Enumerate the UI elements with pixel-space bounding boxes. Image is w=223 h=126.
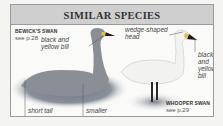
bewicks-bill-note: black and yellow bill [41, 36, 69, 50]
whooper-bill-note: black and yellow bill [198, 51, 214, 79]
short-tail-note: short tail [28, 107, 53, 114]
panel-header: SIMILAR SPECIES [11, 5, 213, 25]
whooper-swan-page-ref: see p.29 [166, 107, 210, 114]
similar-species-panel: SIMILAR SPECIES [10, 4, 214, 117]
whooper-swan-label: WHOOPER SWAN see p.29 [166, 100, 210, 114]
bewicks-swan-name: BEWICK'S SWAN [15, 28, 58, 35]
whooper-head-note: wedge-shaped head [125, 26, 168, 40]
whooper-swan-name: WHOOPER SWAN [166, 100, 210, 107]
panel-title: SIMILAR SPECIES [64, 10, 161, 21]
smaller-note: smaller [86, 107, 107, 114]
